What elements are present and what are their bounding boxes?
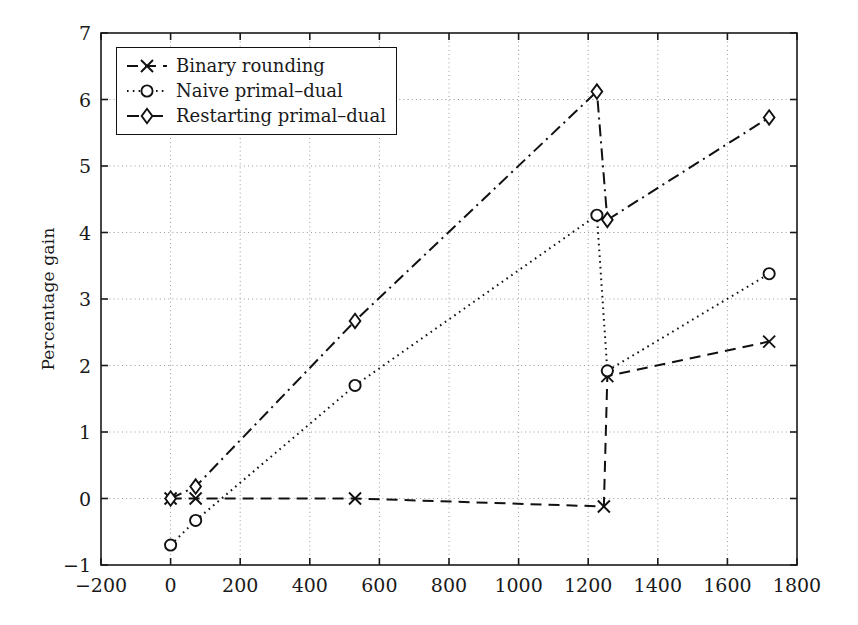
series-line bbox=[171, 342, 770, 507]
data-point-marker bbox=[349, 380, 360, 391]
y-tick-label: 3 bbox=[39, 288, 91, 310]
series-line bbox=[171, 92, 770, 499]
x-tick-label: 1000 bbox=[494, 574, 542, 596]
legend-swatch-o-icon bbox=[125, 80, 169, 102]
data-point-marker bbox=[764, 268, 775, 279]
data-point-marker bbox=[141, 85, 152, 96]
legend-item-0[interactable]: Binary rounding bbox=[125, 53, 386, 78]
data-point-marker bbox=[602, 213, 613, 227]
y-tick-label: 7 bbox=[39, 22, 91, 44]
y-tick-label: 4 bbox=[39, 222, 91, 244]
legend-label: Naive primal–dual bbox=[176, 82, 343, 100]
x-tick-label: −200 bbox=[75, 574, 127, 596]
x-tick-label: 200 bbox=[222, 574, 258, 596]
y-tick-label: 0 bbox=[39, 488, 91, 510]
y-tick-label: 5 bbox=[39, 155, 91, 177]
y-tick-label: −1 bbox=[39, 554, 91, 576]
data-point-marker bbox=[602, 365, 613, 376]
x-tick-label: 0 bbox=[165, 574, 177, 596]
x-tick-label: 400 bbox=[292, 574, 328, 596]
legend-label: Restarting primal–dual bbox=[176, 107, 386, 125]
x-tick-label: 1800 bbox=[773, 574, 821, 596]
legend-item-1[interactable]: Naive primal–dual bbox=[125, 78, 386, 103]
data-point-marker bbox=[142, 108, 153, 122]
x-tick-label: 1400 bbox=[634, 574, 682, 596]
x-tick-label: 1200 bbox=[564, 574, 612, 596]
legend-label: Binary rounding bbox=[176, 57, 325, 75]
legend-swatch-d-icon bbox=[125, 105, 169, 127]
series-line bbox=[171, 215, 770, 545]
series-2 bbox=[165, 84, 774, 505]
chart-legend[interactable]: Binary roundingNaive primal–dualRestarti… bbox=[116, 47, 397, 135]
data-point-marker bbox=[764, 110, 775, 124]
x-tick-label: 600 bbox=[361, 574, 397, 596]
legend-item-2[interactable]: Restarting primal–dual bbox=[125, 103, 386, 128]
data-point-marker bbox=[165, 539, 176, 550]
series-1 bbox=[165, 210, 775, 551]
legend-swatch-x-icon bbox=[125, 55, 169, 77]
data-point-marker bbox=[592, 84, 603, 98]
data-point-marker bbox=[190, 515, 201, 526]
chart-figure: Percentage gain −101234567 −200020040060… bbox=[0, 0, 858, 625]
data-point-marker bbox=[591, 210, 602, 221]
x-tick-label: 800 bbox=[431, 574, 467, 596]
y-tick-label: 6 bbox=[39, 89, 91, 111]
x-tick-label: 1600 bbox=[703, 574, 751, 596]
y-tick-label: 1 bbox=[39, 421, 91, 443]
y-tick-label: 2 bbox=[39, 355, 91, 377]
